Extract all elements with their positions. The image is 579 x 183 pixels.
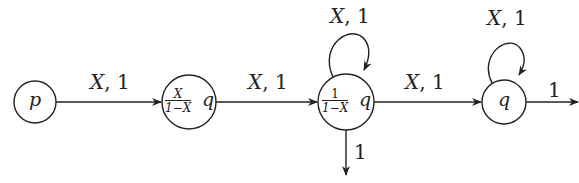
node-n3-denominator: 1−X (322, 100, 348, 114)
self-loop-q (488, 43, 524, 83)
automaton-diagram: p X 1−X q 1 1−X q q X, 1 X, 1 X, 1 X, 1 … (0, 0, 579, 183)
edge-label-p-n2: X, 1 (90, 72, 130, 92)
node-n2-fraction: X 1−X (165, 88, 191, 114)
edge-label-q-loop: X, 1 (487, 8, 527, 28)
edge-label-q-out: 1 (548, 80, 561, 100)
self-loop-n3 (329, 34, 369, 77)
node-n2-numerator: X (165, 88, 191, 100)
node-p-label: p (29, 90, 41, 109)
node-n2-suffix: q (202, 90, 214, 109)
edge-label-n3-loop: X, 1 (330, 6, 370, 26)
node-n3-suffix: q (359, 90, 371, 109)
node-q-label: q (498, 90, 510, 109)
node-n2-denominator: 1−X (165, 100, 191, 114)
edge-label-n3-out: 1 (354, 142, 367, 162)
node-n3-fraction: 1 1−X (322, 88, 348, 114)
edge-label-n2-n3: X, 1 (248, 72, 288, 92)
edge-label-n3-q: X, 1 (405, 72, 445, 92)
node-n3-numerator: 1 (322, 88, 348, 100)
